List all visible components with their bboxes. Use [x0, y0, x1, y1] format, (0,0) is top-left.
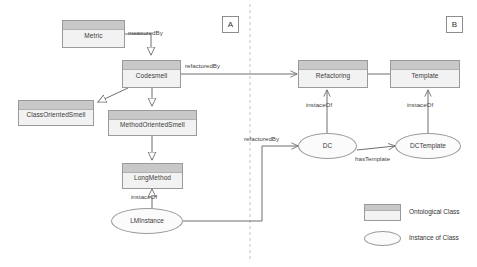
legend-swatch-rectangle — [364, 204, 401, 221]
instance-label-lm-instance: LMInstance — [130, 218, 164, 225]
class-node-method-oriented-smell[interactable]: MethodOrientedSmell — [108, 110, 197, 136]
edge-metric-measuredby-codesmell — [125, 34, 151, 55]
edge-label-measured-by: measuredBy — [128, 30, 163, 36]
class-label-method-oriented-smell: MethodOrientedSmell — [120, 117, 185, 129]
class-label-codesmell: Codesmell — [136, 68, 168, 80]
legend-swatch-header-band — [365, 205, 400, 211]
edge-label-refactored-by-top: refactoredBy — [185, 63, 220, 69]
instance-label-dc: DC — [323, 143, 332, 150]
class-node-refactoring[interactable]: Refactoring — [298, 60, 368, 88]
edge-label-instace-of-dctemplate: instaceOf — [407, 102, 433, 108]
legend-row-ontological-class: Ontological Class — [364, 202, 472, 224]
instance-node-dc-template[interactable]: DCTemplate — [395, 133, 461, 159]
legend: Ontological Class Instance of Class — [364, 202, 472, 254]
legend-row-instance-of-class: Instance of Class — [364, 228, 472, 250]
section-marker-a-label: A — [228, 20, 233, 29]
class-label-long-method: LongMethod — [134, 170, 171, 182]
legend-label-ontological-class: Ontological Class — [409, 208, 460, 215]
class-node-metric[interactable]: Metric — [62, 20, 125, 48]
edge-lminstance-refactoredby-dc — [183, 146, 298, 221]
edge-label-has-template: hasTemplate — [355, 156, 390, 162]
class-node-codesmell[interactable]: Codesmell — [122, 60, 181, 88]
class-label-refactoring: Refactoring — [316, 68, 350, 80]
instance-node-lm-instance[interactable]: LMInstance — [111, 208, 183, 234]
edge-label-refactored-by-bottom: refactoredBy — [244, 136, 279, 142]
legend-label-instance-of-class: Instance of Class — [409, 234, 459, 241]
section-marker-b-label: B — [452, 20, 457, 29]
class-node-class-oriented-smell[interactable]: ClassOrientedSmell — [18, 100, 94, 126]
instance-node-dc[interactable]: DC — [298, 133, 357, 159]
class-node-template[interactable]: Template — [390, 60, 460, 88]
class-node-long-method[interactable]: LongMethod — [122, 163, 183, 189]
edge-dc-hastemplate-dctemplate — [357, 146, 395, 150]
edge-codesmell-gen-classorientedsmell — [98, 88, 128, 102]
edge-label-instace-of-dc: instaceOf — [306, 102, 332, 108]
class-label-class-oriented-smell: ClassOrientedSmell — [26, 107, 85, 119]
class-label-metric: Metric — [84, 28, 102, 40]
section-marker-b: B — [446, 16, 463, 33]
diagram-canvas: Codesmell --> Refactoring (crosses divid… — [0, 0, 477, 267]
edge-label-instace-of-lm: instaceOf — [131, 194, 157, 200]
legend-swatch-ellipse — [364, 231, 401, 246]
class-label-template: Template — [411, 68, 438, 80]
instance-label-dc-template: DCTemplate — [410, 143, 446, 150]
section-marker-a: A — [222, 16, 239, 33]
